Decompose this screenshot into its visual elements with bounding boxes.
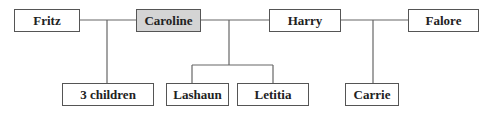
node-3-children: 3 children bbox=[62, 83, 154, 106]
node-label: Fritz bbox=[33, 13, 60, 29]
node-label: 3 children bbox=[80, 87, 136, 103]
node-harry: Harry bbox=[269, 9, 341, 32]
node-label: Lashaun bbox=[173, 87, 221, 103]
node-label: Carrie bbox=[354, 87, 391, 103]
node-fritz: Fritz bbox=[14, 9, 80, 32]
node-lashaun: Lashaun bbox=[166, 83, 229, 106]
node-letitia: Letitia bbox=[237, 83, 309, 106]
node-label: Harry bbox=[288, 13, 323, 29]
node-label: Caroline bbox=[144, 13, 192, 29]
node-caroline: Caroline bbox=[136, 9, 201, 32]
node-carrie: Carrie bbox=[345, 83, 399, 106]
node-label: Falore bbox=[426, 13, 462, 29]
node-label: Letitia bbox=[255, 87, 292, 103]
node-falore: Falore bbox=[408, 9, 479, 32]
